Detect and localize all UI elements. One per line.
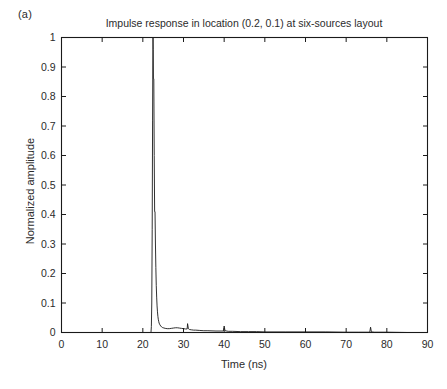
x-tick-label: 60 xyxy=(300,338,312,350)
figure-container: (a) Impulse response in location (0.2, 0… xyxy=(0,0,447,389)
x-tick-label: 30 xyxy=(178,338,190,350)
y-tick-label: 0.1 xyxy=(41,297,56,309)
x-tick-label: 90 xyxy=(422,338,434,350)
x-tick-label: 10 xyxy=(96,338,108,350)
x-axis-ticks xyxy=(62,38,428,333)
data-series-group xyxy=(62,38,428,333)
y-tick-label: 0.6 xyxy=(41,149,56,161)
y-tick-label: 0.2 xyxy=(41,267,56,279)
x-tick-label: 0 xyxy=(59,338,65,350)
impulse-response-line xyxy=(62,38,428,333)
x-tick-label: 40 xyxy=(218,338,230,350)
y-tick-label: 0.9 xyxy=(41,61,56,73)
y-tick-label: 0.5 xyxy=(41,179,56,191)
y-axis-tick-labels: 00.10.20.30.40.50.60.70.80.91 xyxy=(41,31,56,338)
x-axis-tick-labels: 0102030405060708090 xyxy=(59,338,434,350)
y-tick-label: 0.3 xyxy=(41,238,56,250)
x-tick-label: 70 xyxy=(340,338,352,350)
y-axis-ticks xyxy=(62,38,428,333)
y-tick-label: 0 xyxy=(50,326,56,338)
axes-frame xyxy=(62,38,428,333)
chart-plot-area: 0102030405060708090 00.10.20.30.40.50.60… xyxy=(0,0,447,389)
y-tick-label: 0.8 xyxy=(41,90,56,102)
y-tick-label: 1 xyxy=(50,31,56,43)
y-tick-label: 0.4 xyxy=(41,208,56,220)
x-tick-label: 80 xyxy=(381,338,393,350)
y-tick-label: 0.7 xyxy=(41,120,56,132)
x-tick-label: 50 xyxy=(259,338,271,350)
x-tick-label: 20 xyxy=(137,338,149,350)
